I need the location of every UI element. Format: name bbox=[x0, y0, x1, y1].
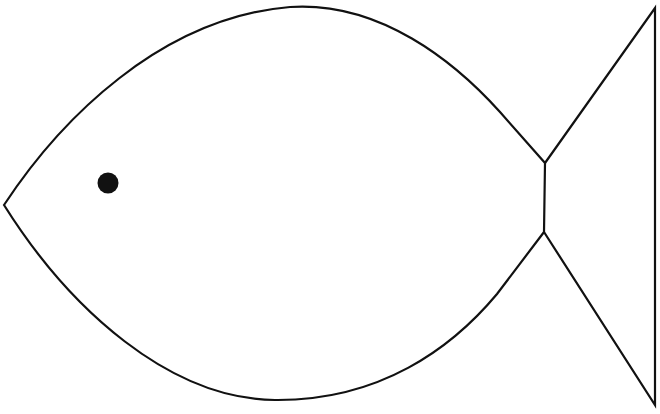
canvas-background bbox=[0, 0, 660, 414]
drawing-canvas bbox=[0, 0, 660, 414]
fish-illustration bbox=[0, 0, 660, 414]
fish-eye-dot bbox=[98, 173, 119, 194]
